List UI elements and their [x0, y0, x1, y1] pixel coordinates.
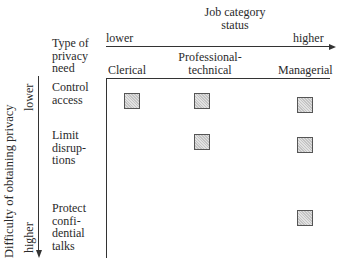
row-label-control-access: Control access: [52, 81, 89, 106]
row-label-line: Control: [52, 81, 89, 94]
marker-limit-disruptions-managerial: [297, 137, 313, 153]
y-axis-arrow-line: [38, 76, 39, 252]
row-label-line: tions: [52, 154, 86, 167]
column-header-professional-technical: Professional- technical: [160, 51, 260, 76]
row-header-type-of-privacy-need: Type of privacy need: [52, 37, 89, 75]
x-axis-title-line2: status: [170, 19, 300, 32]
marker-control-access-managerial: [297, 97, 313, 113]
row-label-line: Protect: [52, 202, 86, 215]
column-header-managerial: Managerial: [278, 64, 333, 76]
x-axis-low-label: lower: [106, 32, 133, 44]
row-label-line: access: [52, 94, 89, 107]
row-header-line1: Type of: [52, 37, 89, 50]
row-label-protect-confidential-talks: Protect confi- dential talks: [52, 202, 86, 252]
x-axis-title: Job category status: [170, 6, 300, 32]
x-axis-arrowhead-icon: [329, 44, 336, 50]
y-axis-high-label: higher: [23, 222, 35, 253]
marker-control-access-professional-technical: [194, 93, 210, 109]
column-header-line2: technical: [160, 64, 260, 76]
grid-left-border: [106, 78, 107, 258]
marker-protect-confidential-talks-managerial: [297, 210, 313, 226]
marker-control-access-clerical: [124, 93, 140, 109]
y-axis-title: Difficulty of obtaining privacy: [3, 104, 15, 258]
x-axis-arrow-line: [106, 46, 330, 47]
y-axis-arrowhead-icon: [36, 250, 42, 258]
marker-limit-disruptions-professional-technical: [194, 134, 210, 150]
row-label-line: talks: [52, 240, 86, 253]
column-header-line1: Professional-: [160, 51, 260, 63]
row-header-line3: need: [52, 62, 89, 75]
x-axis-high-label: higher: [293, 32, 324, 44]
column-header-clerical: Clerical: [108, 64, 146, 76]
row-label-limit-disruptions: Limit disrup- tions: [52, 129, 86, 167]
grid-top-border: [106, 78, 330, 79]
row-label-line: Limit: [52, 129, 86, 142]
y-axis-low-label: lower: [23, 84, 35, 111]
row-label-line: dential: [52, 227, 86, 240]
